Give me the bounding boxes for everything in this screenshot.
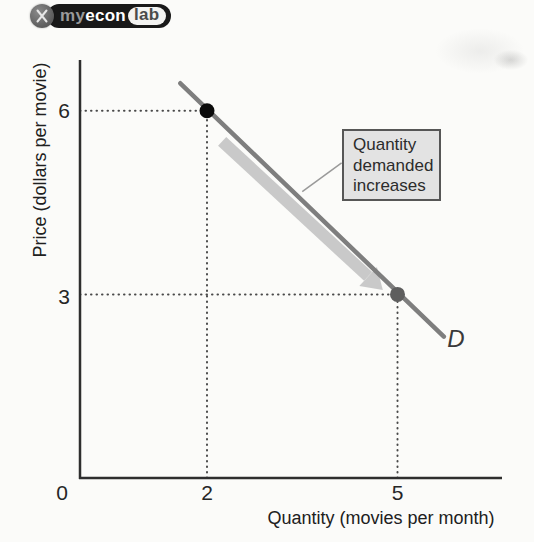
y-tick-label: 6	[58, 99, 70, 123]
y-axis-title: Price (dollars per movie)	[30, 62, 51, 257]
annotation-line: demanded	[353, 156, 436, 177]
y-tick-label: 3	[58, 285, 70, 309]
x-monogram-icon	[30, 4, 54, 28]
annotation-line: Quantity	[353, 135, 436, 156]
annotation-line: increases	[353, 176, 436, 197]
x-axis-title: Quantity (movies per month)	[267, 508, 494, 529]
data-point-marker	[200, 103, 215, 118]
x-tick-label: 2	[201, 481, 213, 505]
x-tick-label: 5	[392, 481, 404, 505]
data-point-marker	[390, 287, 405, 302]
demand-curve-line	[180, 83, 444, 336]
figure-page: myeconlab Price (dollars per movie) Quan…	[0, 0, 534, 542]
x-tick-label: 0	[56, 481, 68, 505]
annotation-box: Quantity demanded increases	[342, 129, 441, 201]
callout-leader-line	[302, 163, 341, 192]
demand-curve-label: D	[447, 325, 464, 353]
chart-canvas	[0, 0, 534, 542]
